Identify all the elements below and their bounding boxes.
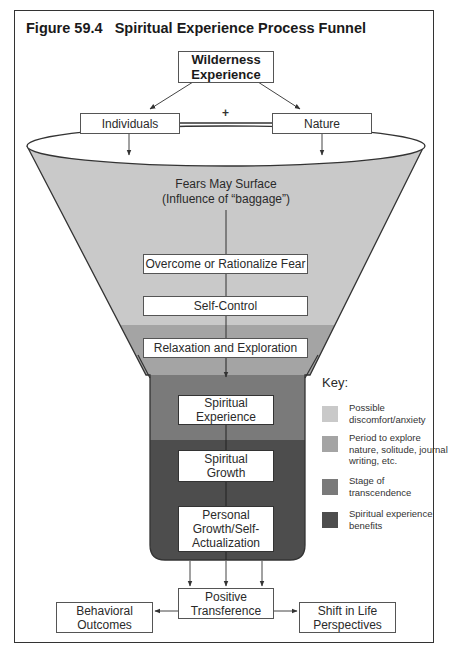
- swatch-explore: [322, 436, 338, 452]
- funnel-graphic: [0, 0, 450, 653]
- swatch-discomfort: [322, 406, 338, 422]
- stage-overcome-fear: Overcome or Rationalize Fear: [143, 254, 308, 274]
- fears-label: Fears May Surface (Influence of “baggage…: [126, 177, 326, 207]
- stage-relaxation-exploration: Relaxation and Exploration: [143, 338, 308, 358]
- key-item-transcendence: Stage of transcendence: [322, 475, 449, 498]
- key-title: Key:: [322, 375, 348, 390]
- individuals-box: Individuals: [80, 113, 180, 134]
- swatch-benefits: [322, 512, 338, 528]
- wilderness-experience-box: Wilderness Experience: [178, 51, 274, 83]
- stage-personal-growth: Personal Growth/Self- Actualization: [178, 506, 274, 552]
- stage-spiritual-growth: Spiritual Growth: [178, 450, 274, 482]
- shift-in-life-perspectives-box: Shift in Life Perspectives: [299, 602, 396, 633]
- behavioral-outcomes-box: Behavioral Outcomes: [56, 602, 153, 633]
- key-item-benefits: Spiritual experience benefits: [322, 508, 449, 531]
- positive-transference-box: Positive Transference: [178, 588, 274, 619]
- arrow-to-nature: [258, 82, 300, 109]
- plus-sign: +: [222, 106, 229, 120]
- stage-self-control: Self-Control: [143, 296, 308, 316]
- stage-spiritual-experience: Spiritual Experience: [178, 395, 274, 425]
- key-item-discomfort: Possible discomfort/anxiety: [322, 402, 449, 425]
- nature-box: Nature: [272, 113, 372, 134]
- arrow-to-individuals: [150, 82, 193, 109]
- swatch-transcendence: [322, 479, 338, 495]
- key-item-explore: Period to explore nature, solitude, jour…: [322, 432, 449, 467]
